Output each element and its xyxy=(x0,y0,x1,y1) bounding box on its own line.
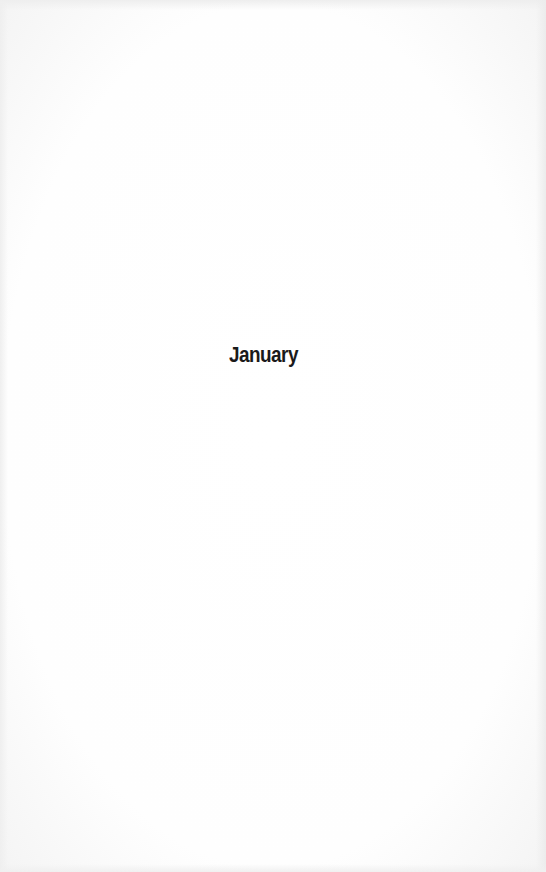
page-edge-bottom xyxy=(0,864,546,872)
page-heading: January xyxy=(229,341,298,369)
page-edge-left xyxy=(0,0,8,872)
page-edge-right xyxy=(536,0,546,872)
scanned-page: January xyxy=(0,0,546,872)
page-edge-top xyxy=(0,0,546,10)
